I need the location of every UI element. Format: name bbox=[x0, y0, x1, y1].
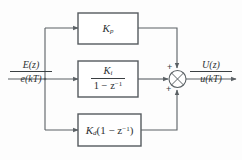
integral-denominator-exponent: −1 bbox=[115, 80, 122, 88]
integral-denominator-base: 1 − z bbox=[94, 80, 115, 91]
input-signal-label: E(z) e(kT) bbox=[10, 59, 52, 84]
derivative-expression-close: ) bbox=[130, 124, 134, 136]
proportional-gain-symbol: K bbox=[103, 22, 110, 34]
block-integral-label: Ki 1 − z−1 bbox=[78, 65, 138, 91]
block-proportional-label: Kp bbox=[78, 22, 138, 35]
block-diagram-canvas: Kp Ki 1 − z−1 Kd(1 − z−1) E(z) e(kT) U(z… bbox=[0, 0, 242, 160]
derivative-expression-open: (1 − z bbox=[96, 124, 122, 136]
integral-denominator: 1 − z−1 bbox=[91, 79, 126, 91]
summer-sign-top: + bbox=[167, 62, 172, 72]
block-derivative-label: Kd(1 − z−1) bbox=[78, 124, 141, 137]
output-time-domain-label: u(kT) bbox=[190, 72, 232, 84]
input-time-domain-label: e(kT) bbox=[10, 72, 52, 84]
integral-numerator: Ki bbox=[91, 65, 126, 79]
output-z-domain-label: U(z) bbox=[190, 59, 232, 72]
proportional-gain-subscript: p bbox=[110, 27, 114, 35]
input-z-domain-label: E(z) bbox=[10, 59, 52, 72]
output-signal-label: U(z) u(kT) bbox=[190, 59, 232, 84]
integral-numerator-subscript: i bbox=[111, 69, 113, 77]
integral-numerator-symbol: K bbox=[104, 65, 111, 76]
wire-derivative-to-summer bbox=[141, 90, 177, 130]
derivative-expression-exponent: −1 bbox=[122, 125, 129, 133]
integral-fraction: Ki 1 − z−1 bbox=[91, 65, 126, 91]
derivative-gain-symbol: K bbox=[86, 124, 93, 136]
summer-sign-bottom: + bbox=[166, 84, 171, 94]
